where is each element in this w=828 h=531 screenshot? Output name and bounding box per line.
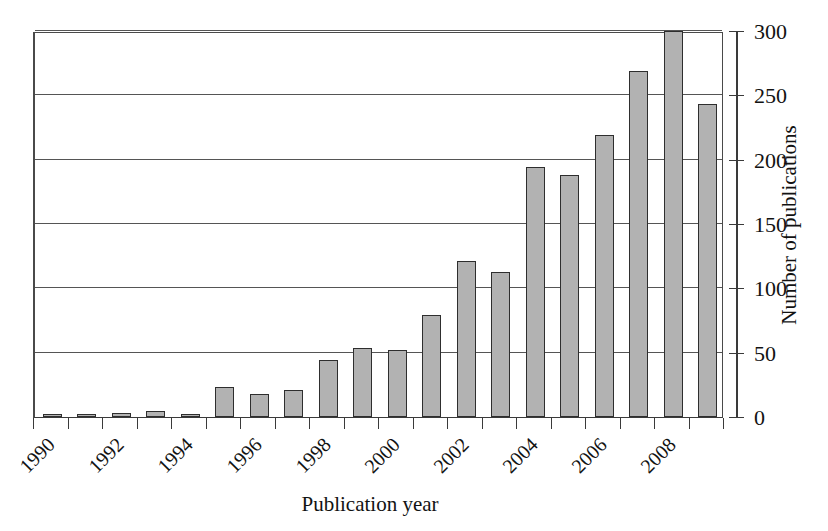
bar bbox=[422, 315, 441, 417]
y-tick-label: 0 bbox=[754, 407, 765, 429]
x-tick-mark bbox=[344, 418, 345, 429]
x-tick-mark bbox=[447, 418, 448, 429]
x-tick-mark bbox=[68, 418, 69, 429]
x-tick-mark bbox=[206, 418, 207, 429]
bar bbox=[664, 31, 683, 417]
x-tick-label: 2002 bbox=[430, 434, 472, 476]
x-tick-mark bbox=[413, 418, 414, 429]
x-tick-mark bbox=[516, 418, 517, 429]
x-tick-mark bbox=[240, 418, 241, 429]
x-tick-label: 2008 bbox=[637, 434, 679, 476]
x-tick-label: 1996 bbox=[223, 434, 265, 476]
x-tick-label: 1994 bbox=[154, 434, 196, 476]
bar bbox=[112, 413, 131, 417]
x-tick-mark bbox=[689, 418, 690, 429]
x-axis-title: Publication year bbox=[0, 492, 740, 517]
y-tick-mark bbox=[729, 224, 744, 225]
bar bbox=[319, 360, 338, 417]
x-tick-mark bbox=[33, 418, 34, 429]
x-tick-label: 2006 bbox=[568, 434, 610, 476]
x-tick-label: 1992 bbox=[85, 434, 127, 476]
gridline bbox=[35, 30, 722, 31]
y-tick-mark bbox=[729, 288, 744, 289]
x-tick-mark bbox=[620, 418, 621, 429]
bar bbox=[560, 175, 579, 417]
bar bbox=[250, 394, 269, 417]
x-tick-mark bbox=[585, 418, 586, 429]
bar bbox=[181, 414, 200, 417]
x-tick-mark bbox=[137, 418, 138, 429]
x-tick-mark bbox=[171, 418, 172, 429]
x-tick-label: 2000 bbox=[361, 434, 403, 476]
x-tick-label: 1998 bbox=[292, 434, 334, 476]
x-axis-ticks bbox=[33, 418, 723, 430]
y-axis-title: Number of publications bbox=[772, 32, 806, 418]
x-tick-mark bbox=[102, 418, 103, 429]
y-tick-mark bbox=[729, 31, 744, 32]
bar bbox=[629, 71, 648, 417]
y-tick-mark bbox=[729, 160, 744, 161]
x-tick-mark bbox=[723, 418, 724, 429]
bar bbox=[43, 414, 62, 417]
x-tick-mark bbox=[275, 418, 276, 429]
y-axis-line bbox=[736, 32, 738, 418]
bar bbox=[595, 135, 614, 417]
bar bbox=[146, 411, 165, 417]
x-tick-label: 2004 bbox=[499, 434, 541, 476]
y-tick-mark bbox=[729, 353, 744, 354]
bar bbox=[526, 167, 545, 417]
publication-year-bar-chart: 050100150200250300 Number of publication… bbox=[0, 0, 828, 531]
y-tick-mark bbox=[729, 95, 744, 96]
x-tick-mark bbox=[309, 418, 310, 429]
x-tick-mark bbox=[551, 418, 552, 429]
plot-area bbox=[33, 32, 723, 418]
bar bbox=[388, 350, 407, 417]
x-tick-label: 1990 bbox=[16, 434, 58, 476]
x-tick-mark bbox=[482, 418, 483, 429]
x-tick-mark bbox=[378, 418, 379, 429]
bar bbox=[77, 414, 96, 417]
bar bbox=[215, 387, 234, 417]
bar-series bbox=[35, 33, 722, 417]
bar bbox=[284, 390, 303, 417]
bar bbox=[353, 348, 372, 417]
bar bbox=[457, 261, 476, 417]
bar bbox=[698, 104, 717, 417]
bar bbox=[491, 272, 510, 417]
y-tick-mark bbox=[729, 417, 744, 418]
x-tick-mark bbox=[654, 418, 655, 429]
